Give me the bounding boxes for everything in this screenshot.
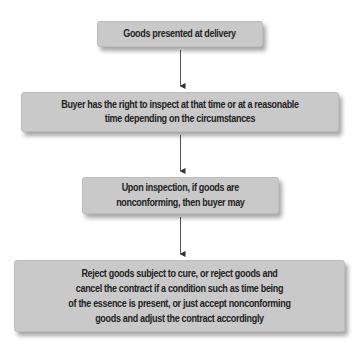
node-goods-presented: Goods presented at delivery bbox=[97, 21, 263, 47]
node-label: Reject goods subject to cure, or reject … bbox=[68, 266, 290, 326]
node-upon-inspection: Upon inspection, if goods are nonconform… bbox=[82, 177, 279, 214]
node-buyer-right-to-inspect: Buyer has the right to inspect at that t… bbox=[21, 92, 339, 132]
node-label: Upon inspection, if goods are nonconform… bbox=[116, 181, 244, 210]
node-buyer-options: Reject goods subject to cure, or reject … bbox=[14, 260, 345, 332]
node-label: Buyer has the right to inspect at that t… bbox=[61, 98, 299, 127]
node-label: Goods presented at delivery bbox=[124, 27, 237, 42]
